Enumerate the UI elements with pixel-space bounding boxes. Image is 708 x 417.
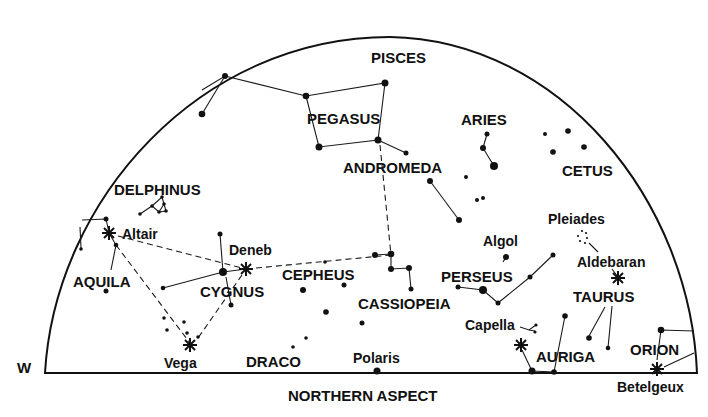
deneb-bright-star-icon xyxy=(239,262,253,276)
label-deneb: Deneb xyxy=(229,242,272,258)
label-cetus: CETUS xyxy=(562,162,613,179)
delphinus-figure xyxy=(138,195,168,216)
label-cepheus: CEPHEUS xyxy=(282,266,355,283)
label-aries: ARIES xyxy=(461,111,507,128)
label-draco: DRACO xyxy=(246,353,301,370)
betelgeux-bright-star-icon xyxy=(650,362,664,376)
label-perseus: PERSEUS xyxy=(441,268,513,285)
label-aquila: AQUILA xyxy=(73,273,131,290)
label-taurus: TAURUS xyxy=(573,288,634,305)
label-betelgeux: Betelgeux xyxy=(617,379,684,395)
label-capella: Capella xyxy=(465,317,515,333)
vega-bright-star-icon xyxy=(183,338,197,352)
altair-bright-star-icon xyxy=(102,226,116,240)
aldebaran-bright-star-icon xyxy=(611,271,625,285)
direction-west-label: W xyxy=(17,359,32,376)
label-pisces: PISCES xyxy=(371,49,426,66)
aries-figure xyxy=(480,132,498,171)
label-delphinus: DELPHINUS xyxy=(114,181,201,198)
label-cygnus: CYGNUS xyxy=(200,283,264,300)
label-cassiopeia: CASSIOPEIA xyxy=(358,295,451,312)
andromeda-figure xyxy=(378,140,485,255)
label-algol: Algol xyxy=(483,233,518,249)
cetus-figure xyxy=(543,128,587,155)
label-vega: Vega xyxy=(164,355,197,371)
label-pleiades: Pleiades xyxy=(548,211,605,227)
pleiades-cluster xyxy=(577,230,598,252)
label-auriga: AURIGA xyxy=(536,348,595,365)
label-altair: Altair xyxy=(122,226,158,242)
label-aldebaran: Aldebaran xyxy=(577,254,645,270)
cassiopeia-figure xyxy=(372,251,414,292)
star-chart: PISCES PEGASUS ARIES ANDROMEDA CETUS DEL… xyxy=(0,0,708,417)
sky-dome-outline xyxy=(45,37,697,373)
polaris-star xyxy=(374,368,381,375)
draco-figure xyxy=(291,336,308,349)
taurus-figure xyxy=(586,269,618,350)
label-orion: ORION xyxy=(630,341,679,358)
label-polaris: Polaris xyxy=(353,350,400,366)
lyra-stars xyxy=(162,316,200,339)
capella-bright-star-icon xyxy=(514,338,528,352)
chart-title: NORTHERN ASPECT xyxy=(288,387,437,404)
label-pegasus: PEGASUS xyxy=(307,110,380,127)
label-andromeda: ANDROMEDA xyxy=(343,159,442,176)
